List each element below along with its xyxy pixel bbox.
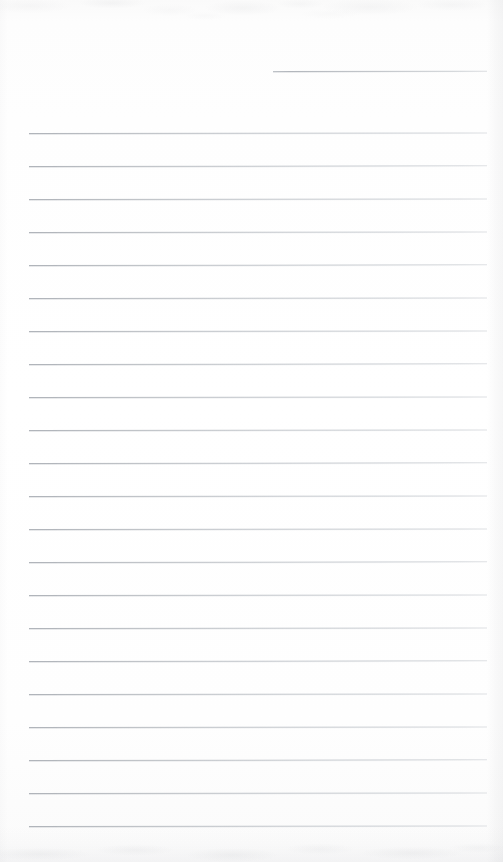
ruled-line-4 — [29, 231, 487, 233]
ruled-line-12 — [29, 496, 487, 497]
ruled-line-18 — [29, 694, 487, 695]
ruled-line-5 — [29, 264, 487, 266]
ruled-line-1 — [29, 132, 487, 134]
ruled-line-8 — [29, 363, 487, 365]
ruled-line-7 — [29, 330, 487, 332]
ruled-line-15 — [29, 595, 487, 596]
ruled-line-22 — [29, 825, 487, 827]
ruled-line-14 — [29, 561, 487, 563]
ruled-line-21 — [29, 793, 487, 794]
ruled-line-10 — [29, 429, 487, 431]
ruled-line-17 — [29, 660, 487, 662]
ruled-line-3 — [29, 199, 487, 200]
ruled-line-11 — [29, 462, 487, 464]
ruled-line-16 — [29, 627, 487, 629]
ruled-line-6 — [29, 298, 487, 299]
ruled-line-2 — [29, 165, 487, 167]
date-rule-line — [273, 71, 487, 72]
ruled-line-19 — [29, 726, 487, 728]
scanned-page — [0, 0, 503, 862]
ruled-line-13 — [29, 528, 487, 530]
ruled-line-20 — [29, 759, 487, 761]
ruled-line-9 — [29, 397, 487, 398]
